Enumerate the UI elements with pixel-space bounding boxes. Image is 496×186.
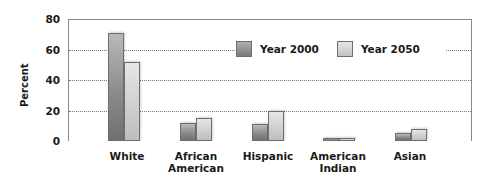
y-tick-label: 40 [34,74,60,86]
category-label-line: African [156,150,236,162]
legend-swatch-year-2050 [337,41,353,57]
category-label-hispanic: Hispanic [228,150,308,162]
bar-american-indian-year-2000 [323,138,339,141]
category-label-line: American [298,150,378,162]
bar-white-year-2000 [108,33,124,141]
bar-asian-year-2000 [395,133,411,141]
category-label-line: Hispanic [228,150,308,162]
bar-hispanic-year-2050 [268,111,284,142]
category-label-white: White [87,150,167,162]
legend: Year 2000 Year 2050 [236,38,446,60]
bar-white-year-2050 [124,62,140,141]
category-label-african-american: African American [156,150,236,174]
legend-label: Year 2000 [260,43,319,55]
population-bar-chart: Percent 020406080 Year 2000 Year 2050 Wh… [0,0,496,186]
bar-hispanic-year-2000 [252,124,268,141]
bar-american-indian-year-2050 [339,138,355,141]
bar-african-american-year-2000 [180,123,196,141]
legend-label: Year 2050 [361,43,420,55]
y-tick-label: 60 [34,44,60,56]
legend-swatch-year-2000 [236,41,252,57]
category-label-line: Asian [370,150,450,162]
bar-african-american-year-2050 [196,118,212,141]
category-label-american-indian: American Indian [298,150,378,174]
y-tick-label: 20 [34,105,60,117]
category-label-line: Indian [298,162,378,174]
y-tick-label: 0 [34,135,60,147]
bar-asian-year-2050 [411,129,427,141]
legend-item-year-2000: Year 2000 [236,41,319,57]
category-label-line: White [87,150,167,162]
category-label-line: American [156,162,236,174]
y-axis-label: Percent [18,60,32,110]
y-tick-label: 80 [34,13,60,25]
category-label-asian: Asian [370,150,450,162]
legend-item-year-2050: Year 2050 [337,41,420,57]
